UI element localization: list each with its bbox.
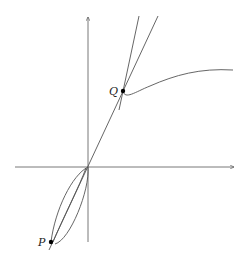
point-q [121,89,125,93]
label-q: Q [109,85,118,98]
loop-inner-branch [55,167,88,244]
label-p: P [37,236,46,249]
point-p [49,240,53,244]
curve-right-branch [123,70,233,95]
diagram: Q P [0,0,247,258]
